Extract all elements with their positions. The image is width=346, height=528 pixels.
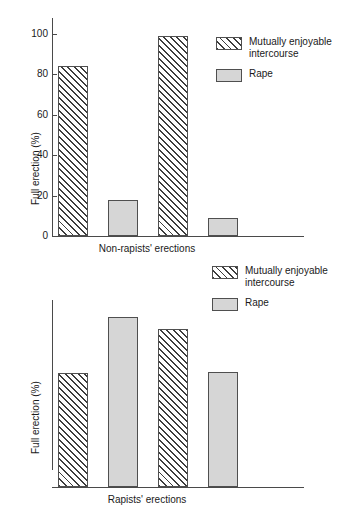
bar (208, 218, 238, 236)
legend-item-rape: Rape (216, 68, 332, 82)
hatched-pattern-swatch-icon (216, 37, 242, 50)
x-axis-line (52, 236, 304, 237)
legend: Mutually enjoyable intercourse Rape (216, 36, 332, 91)
legend-item-rape: Rape (212, 297, 328, 311)
y-axis-tick (52, 236, 57, 237)
chart-non-rapists: Full erection (%) 020406080100 Non-rapis… (0, 0, 346, 264)
x-axis-line (52, 487, 304, 488)
legend-label: Rape (245, 297, 269, 309)
bar (108, 200, 138, 236)
y-axis-tick-label: 40 (18, 150, 48, 160)
legend-item-mutually-enjoyable-intercourse: Mutually enjoyable intercourse (216, 36, 332, 59)
x-axis-title: Non-rapists' erections (52, 243, 242, 254)
chart-rapists: Full erection (%) 020406080100 Rapists' … (0, 264, 346, 528)
y-axis-tick-label: 80 (18, 69, 48, 79)
bar (208, 372, 238, 487)
solid-gray-swatch-icon (216, 69, 242, 82)
bar (158, 329, 188, 487)
legend-label: Mutually enjoyable intercourse (249, 36, 332, 59)
y-axis-tick-label: 0 (18, 231, 48, 241)
bar (108, 317, 138, 487)
hatched-pattern-swatch-icon (212, 266, 238, 279)
y-axis-title: Full erection (%) (30, 381, 41, 454)
legend-label: Mutually enjoyable intercourse (245, 265, 328, 288)
bars-group (52, 315, 304, 487)
legend-label: Rape (249, 68, 273, 80)
y-axis-tick-label: 20 (18, 191, 48, 201)
legend: Mutually enjoyable intercourse Rape (212, 265, 328, 320)
bar (58, 66, 88, 236)
solid-gray-swatch-icon (212, 298, 238, 311)
x-axis-title: Rapists' erections (52, 494, 242, 505)
bar (158, 36, 188, 236)
y-axis-tick-label: 100 (18, 29, 48, 39)
y-axis-tick-label: 60 (18, 110, 48, 120)
legend-item-mutually-enjoyable-intercourse: Mutually enjoyable intercourse (212, 265, 328, 288)
bar (58, 373, 88, 487)
